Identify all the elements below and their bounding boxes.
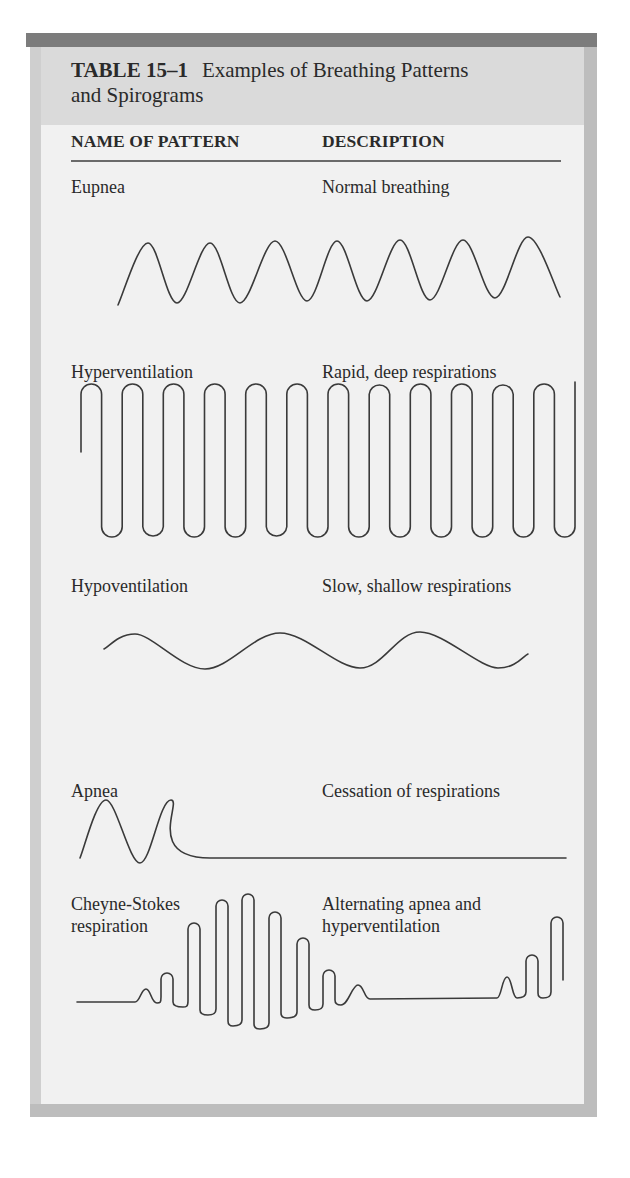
table-body [41, 125, 584, 1104]
right-border [584, 47, 597, 1104]
table-title: TABLE 15–1Examples of Breathing Patterns… [71, 58, 571, 108]
row-name-cheyne-stokes-line2: respiration [71, 915, 180, 937]
row-desc-eupnea: Normal breathing [322, 176, 449, 198]
row-name-cheyne-stokes: Cheyne-Stokes respiration [71, 893, 180, 937]
row-desc-hyperventilation: Rapid, deep respirations [322, 361, 496, 383]
left-border [30, 47, 41, 1104]
row-desc-cheyne-stokes-line2: hyperventilation [322, 915, 481, 937]
table-title-line2: and Spirograms [71, 83, 571, 108]
header-underline [71, 160, 561, 162]
row-name-hyperventilation: Hyperventilation [71, 361, 193, 383]
row-desc-cheyne-stokes: Alternating apnea and hyperventilation [322, 893, 481, 937]
row-desc-cheyne-stokes-line1: Alternating apnea and [322, 893, 481, 915]
table-number: TABLE 15–1 [71, 58, 188, 82]
row-name-apnea: Apnea [71, 780, 118, 802]
row-name-hypoventilation: Hypoventilation [71, 575, 188, 597]
row-desc-hypoventilation: Slow, shallow respirations [322, 575, 511, 597]
row-name-cheyne-stokes-line1: Cheyne-Stokes [71, 893, 180, 915]
top-rule-bar [26, 33, 597, 47]
bottom-border [30, 1104, 597, 1117]
row-name-eupnea: Eupnea [71, 176, 125, 198]
table-title-line1: Examples of Breathing Patterns [202, 58, 469, 82]
column-header-description: DESCRIPTION [322, 131, 445, 152]
column-header-name: NAME OF PATTERN [71, 131, 239, 152]
row-desc-apnea: Cessation of respirations [322, 780, 500, 802]
